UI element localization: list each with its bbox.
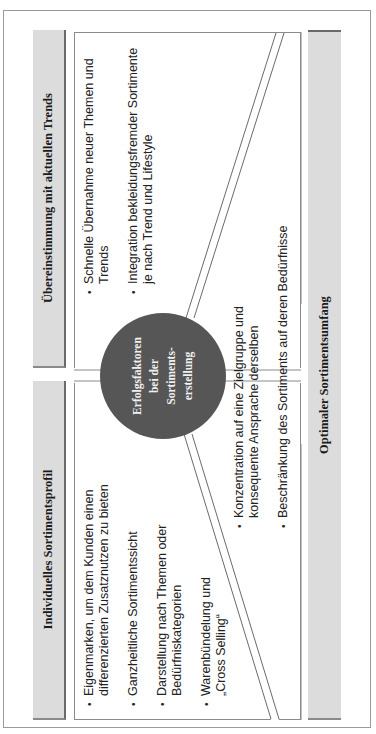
- list-item: Ganzheitliche Sortimentssicht: [126, 456, 141, 706]
- list-item: Konzentration auf eine Zielgruppe und ko…: [232, 248, 262, 528]
- bullet-list-individuelles: Eigenmarken, um dem Kunden einen differe…: [82, 456, 243, 706]
- center-label: Erfolgsfaktoren bei der Sortiments- erst…: [129, 337, 197, 415]
- list-item: Schnelle Übernahme neuer Themen und Tren…: [82, 44, 112, 294]
- list-item: Warenbündelung und „Cross Selling“: [199, 546, 229, 706]
- bullet-list-trends: Schnelle Übernahme neuer Themen und Tren…: [82, 44, 170, 294]
- list-item: Darstellung nach Themen oder Bedürfniska…: [155, 516, 185, 706]
- bullet-list-sortimentsumfang: Konzentration auf eine Zielgruppe und ko…: [232, 248, 305, 528]
- rotated-diagram: Individuelles Sortimentsprofil Übereinst…: [0, 0, 376, 734]
- list-item: Beschränkung des Sortiments auf deren Be…: [276, 198, 291, 528]
- list-item: Integration bekleidungsfremder Sortiment…: [126, 44, 156, 294]
- center-circle-erfolgsfaktoren: Erfolgsfaktoren bei der Sortiments- erst…: [100, 313, 226, 439]
- list-item: Eigenmarken, um dem Kunden einen differe…: [82, 456, 112, 706]
